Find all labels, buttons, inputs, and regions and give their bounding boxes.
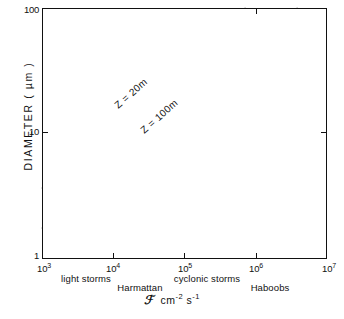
x-tick-label-1e3-mantissa: 10 [37,263,47,274]
figure-root: 100 10 1 DIAMETER ( µm ) 103 104 105 106… [0,0,344,319]
y-tick-label-100: 100 [24,4,39,15]
x-tick-label-1e7-mantissa: 10 [322,263,332,274]
x-category-haboobs: Haboobs [251,282,290,293]
x-axis-unit-cm: cm [160,294,175,306]
x-category-cyclonic-storms: cyclonic storms [174,273,240,284]
x-axis-title: ℱ cm-2 s-1 [144,292,200,307]
x-axis-unit-s-exponent: -1 [192,292,200,301]
y-tick-10-right [321,132,327,133]
x-tick-label-1e6-exponent: 6 [259,262,263,269]
x-tick-label-1e4-exponent: 4 [116,262,120,269]
x-tick-label-1e3: 103 [37,262,51,274]
x-tick-label-1e3-exponent: 3 [47,262,51,269]
x-axis-unit-cm-exponent: -2 [175,292,183,301]
y-tick-10-left [42,132,48,133]
x-tick-label-1e5-exponent: 5 [188,262,192,269]
plot-frame [42,8,327,259]
x-tick-label-1e6-mantissa: 10 [249,263,259,274]
x-category-light-storms: light storms [61,273,111,284]
x-tick-label-1e7-exponent: 7 [332,262,336,269]
x-tick-1e6 [256,253,257,259]
x-tick-label-1e6: 106 [249,262,263,274]
y-tick-label-1: 1 [34,250,39,261]
x-tick-1e5 [184,253,185,259]
flux-symbol-icon: ℱ [144,293,154,307]
x-tick-top-1e6 [256,8,257,14]
y-axis-title: DIAMETER ( µm ) [22,36,34,196]
x-tick-label-1e7: 107 [322,262,336,274]
x-tick-1e4 [113,253,114,259]
